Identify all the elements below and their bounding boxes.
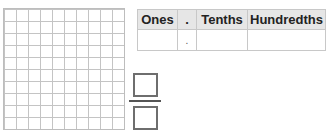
header-tenths: Tenths — [197, 10, 248, 30]
table-header-row: Ones . Tenths Hundredths — [138, 10, 326, 30]
header-decimal-point: . — [178, 10, 197, 30]
denominator-box[interactable] — [133, 106, 158, 130]
hundredths-cell[interactable] — [248, 30, 326, 51]
tenths-cell[interactable] — [197, 30, 248, 51]
hundred-grid — [3, 8, 125, 130]
header-hundredths: Hundredths — [248, 10, 326, 30]
fraction-bar — [129, 100, 161, 102]
table-row: . — [138, 30, 326, 51]
place-value-table: Ones . Tenths Hundredths . — [137, 9, 326, 51]
decimal-point-cell: . — [178, 30, 197, 51]
ones-cell[interactable] — [138, 30, 178, 51]
numerator-box[interactable] — [133, 73, 158, 97]
header-ones: Ones — [138, 10, 178, 30]
